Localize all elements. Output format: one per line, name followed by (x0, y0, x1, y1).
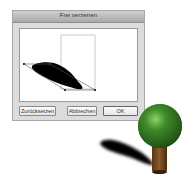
distort-preview-canvas[interactable] (19, 28, 138, 102)
ok-button[interactable]: OK (103, 106, 138, 116)
cancel-button[interactable]: Abbrechen (67, 106, 97, 116)
handle-bottom-right (94, 89, 96, 91)
handle-bottom-left (64, 89, 66, 91)
tree-shadow (100, 140, 154, 165)
handle-top-right (49, 63, 51, 65)
dialog-title: Frei verzerren (13, 12, 144, 18)
distort-preview (20, 29, 137, 101)
dialog-titlebar[interactable]: Frei verzerren (13, 11, 144, 23)
free-distort-dialog: Frei verzerren Zurücksetzen Abbrechen OK (12, 10, 145, 121)
handle-top-left (23, 63, 25, 65)
reset-button[interactable]: Zurücksetzen (19, 106, 56, 116)
